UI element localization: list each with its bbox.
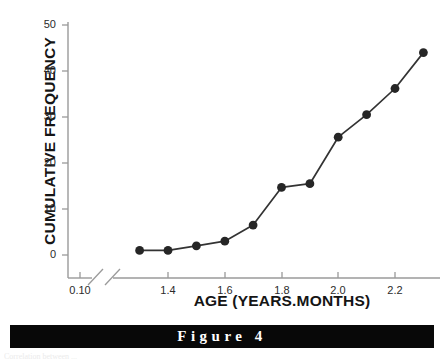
data-point	[362, 110, 371, 119]
cumulative-frequency-chart: CUMULATIVE FREQUENCY AGE (YEARS.MONTHS) …	[0, 0, 444, 312]
y-tick-label-40: 40	[22, 64, 56, 76]
y-tick-label-10: 10	[22, 202, 56, 214]
y-tick-label-20: 20	[22, 156, 56, 168]
data-point	[249, 221, 258, 230]
cumulative-frequency-series-line	[140, 53, 424, 251]
data-point	[334, 133, 343, 142]
x-tick-label-1-4: 1.4	[146, 284, 190, 296]
cumulative-frequency-series-markers	[135, 48, 428, 255]
y-axis-ticks	[62, 25, 68, 255]
y-tick-label-0: 0	[22, 248, 56, 260]
data-point	[164, 246, 173, 255]
data-point	[277, 183, 286, 192]
data-point	[391, 84, 400, 93]
data-point	[192, 241, 201, 250]
x-tick-label-2-0: 2.0	[316, 284, 360, 296]
x-tick-label-2-2: 2.2	[373, 284, 417, 296]
data-point	[419, 48, 428, 57]
x-tick-label-1-6: 1.6	[203, 284, 247, 296]
page-footer-cutoff-text: Correlation between ...	[4, 352, 174, 361]
data-point	[220, 237, 229, 246]
y-tick-label-30: 30	[22, 110, 56, 122]
figure-caption-label: Figure 4	[177, 328, 266, 345]
y-tick-label-50: 50	[22, 18, 56, 30]
figure-page: CUMULATIVE FREQUENCY AGE (YEARS.MONTHS) …	[0, 0, 444, 363]
x-tick-label-0-10: 0.10	[58, 284, 102, 296]
data-point	[135, 246, 144, 255]
figure-caption-banner: Figure 4	[10, 325, 434, 348]
x-axis-ticks	[80, 272, 395, 278]
y-axis-title: CUMULATIVE FREQUENCY	[41, 11, 59, 271]
x-tick-label-1-8: 1.8	[260, 284, 304, 296]
chart-plot-area	[0, 0, 444, 312]
data-point	[306, 179, 315, 188]
x-axis-break-marks	[88, 269, 120, 285]
